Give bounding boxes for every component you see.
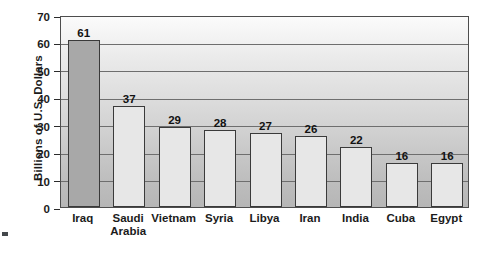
bar-value-label: 37 bbox=[123, 93, 136, 105]
y-axis-tick-label: 70 bbox=[37, 11, 50, 23]
y-axis-tick-label: 0 bbox=[44, 203, 50, 215]
y-axis-tick-mark bbox=[54, 154, 60, 155]
y-axis-tick-mark bbox=[54, 17, 60, 18]
x-axis-category-label: Syria bbox=[196, 212, 241, 225]
y-axis-tick-mark bbox=[54, 44, 60, 45]
bar: 61 bbox=[68, 40, 100, 207]
x-axis-category-label: Libya bbox=[242, 212, 287, 225]
bar-value-label: 29 bbox=[168, 114, 181, 126]
scan-artifact-mark bbox=[2, 232, 8, 236]
y-axis-tick-mark bbox=[54, 99, 60, 100]
bar: 27 bbox=[250, 133, 282, 207]
bar: 16 bbox=[431, 163, 463, 207]
bar: 29 bbox=[159, 127, 191, 207]
y-axis-tick-label: 20 bbox=[37, 148, 50, 160]
x-axis-category-label: Vietnam bbox=[151, 212, 196, 225]
x-axis-category-label: Iran bbox=[287, 212, 332, 225]
bar-value-label: 28 bbox=[214, 117, 227, 129]
y-axis-tick-mark bbox=[54, 71, 60, 72]
y-axis-tick-label: 30 bbox=[37, 121, 50, 133]
plot-area: 010203040506070 613729282726221616 bbox=[60, 16, 469, 208]
x-axis-category-label: India bbox=[333, 212, 378, 225]
bar: 37 bbox=[113, 106, 145, 207]
bar-value-label: 16 bbox=[395, 150, 408, 162]
bar-value-label: 26 bbox=[305, 123, 318, 135]
gridline bbox=[61, 44, 468, 45]
bar: 16 bbox=[386, 163, 418, 207]
x-axis-category-label: Iraq bbox=[60, 212, 105, 225]
bar-value-label: 27 bbox=[259, 120, 272, 132]
y-axis-tick-label: 10 bbox=[37, 176, 50, 188]
bar: 22 bbox=[340, 147, 372, 207]
y-axis-tick-mark bbox=[54, 181, 60, 182]
x-axis-category-label: Saudi Arabia bbox=[105, 212, 150, 238]
bar: 28 bbox=[204, 130, 236, 207]
x-axis-category-label: Egypt bbox=[424, 212, 469, 225]
y-axis-tick-label: 60 bbox=[37, 38, 50, 50]
y-axis-tick-mark bbox=[54, 126, 60, 127]
gridline bbox=[61, 71, 468, 72]
y-axis-tick-label: 40 bbox=[37, 93, 50, 105]
bar-value-label: 22 bbox=[350, 134, 363, 146]
y-axis-tick-label: 50 bbox=[37, 66, 50, 78]
bar: 26 bbox=[295, 136, 327, 207]
bar-value-label: 61 bbox=[77, 27, 90, 39]
bar-value-label: 16 bbox=[441, 150, 454, 162]
y-axis-tick-mark bbox=[54, 209, 60, 210]
bar-chart-figure: Billions of U.S. Dollars 010203040506070… bbox=[0, 0, 495, 254]
x-axis-category-label: Cuba bbox=[378, 212, 423, 225]
